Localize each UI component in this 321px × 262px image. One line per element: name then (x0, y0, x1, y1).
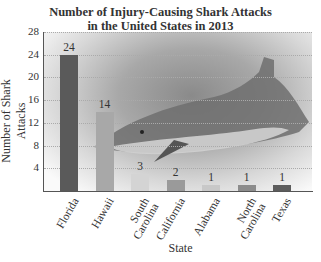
bar-south-carolina (131, 174, 149, 191)
bar-value-label: 2 (161, 166, 191, 178)
bar-value-label: 1 (232, 171, 262, 183)
x-tick-texas: Texas (271, 196, 294, 225)
x-tick-hawaii: Hawaii (90, 196, 116, 230)
y-tick-28: 28 (19, 25, 39, 37)
x-axis-label: State (0, 241, 321, 256)
y-tick-24: 24 (19, 48, 39, 60)
y-axis (43, 32, 44, 192)
bar-value-label: 24 (54, 41, 84, 53)
y-axis-label: Number of Shark Attacks (0, 61, 29, 181)
x-tick-california: California (154, 196, 187, 242)
x-tick-florida: Florida (54, 196, 80, 230)
bar-value-label: 3 (125, 160, 155, 172)
plot-area: 241432111 (44, 32, 312, 191)
bar-florida (60, 55, 78, 191)
bar-value-label: 14 (90, 98, 120, 110)
x-axis (43, 191, 313, 192)
x-tick-alabama: Alabama (192, 196, 222, 237)
chart-title-line2: in the United States in 2013 (0, 19, 321, 33)
bar-california (167, 180, 185, 191)
x-tick-north-carolina: North Carolina (229, 196, 268, 241)
bar-hawaii (96, 112, 114, 192)
chart-title-line1: Number of Injury-Causing Shark Attacks (0, 5, 321, 19)
bar-value-label: 1 (196, 171, 226, 183)
bar-value-label: 1 (267, 171, 297, 183)
